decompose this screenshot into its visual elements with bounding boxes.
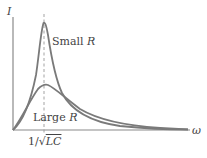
small-r-text: Small <box>52 35 87 48</box>
small-r-var: R <box>87 35 95 48</box>
tick-var: LC <box>46 135 62 148</box>
tick-prefix: 1/√ <box>28 135 46 148</box>
small-r-label: Small R <box>52 36 95 47</box>
x-axis-label: ω <box>192 125 201 136</box>
large-r-var: R <box>69 111 77 124</box>
large-r-text: Large <box>33 111 69 124</box>
large-r-label: Large R <box>33 112 77 123</box>
y-axis-label: I <box>7 6 11 17</box>
resonance-tick-label: 1/√LC <box>28 136 61 147</box>
